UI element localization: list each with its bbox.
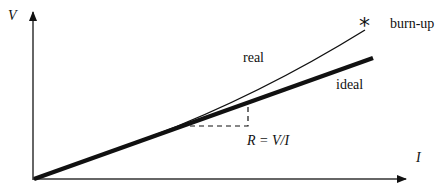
ideal-label: ideal [336, 77, 363, 93]
iv-diagram [0, 0, 439, 192]
real-label: real [243, 50, 264, 66]
resistance-label: R = V/I [247, 133, 289, 149]
real-curve [34, 30, 365, 179]
y-axis-label: V [8, 8, 17, 24]
burnup-star-icon: * [359, 13, 370, 38]
burnup-label: burn-up [390, 16, 434, 32]
x-axis-label: I [416, 150, 421, 166]
